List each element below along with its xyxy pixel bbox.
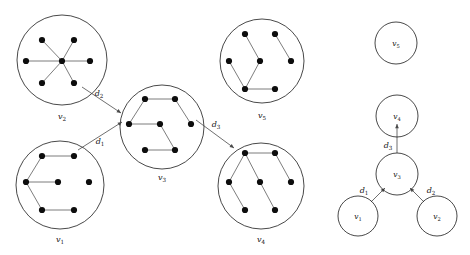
tree-edge-d2: d2 xyxy=(410,186,436,202)
node-v3-3 xyxy=(157,121,163,127)
cluster-label-v5: v5 xyxy=(258,111,267,121)
node-v4-4 xyxy=(288,179,294,185)
tree-node-v2: v2 xyxy=(417,196,457,236)
distance-line-d2 xyxy=(82,87,121,113)
graph-clustering-figure: v2v1v3v5v4d2d1d3d3d1d2v5v4v3v1v2 xyxy=(0,0,470,255)
tree-group: d3d1d2v5v4v3v1v2 xyxy=(338,22,457,236)
edge-v3-4 xyxy=(160,124,175,150)
tree-node-v3: v3 xyxy=(376,153,418,195)
tree-node-v1: v1 xyxy=(338,196,378,236)
distance-arrowhead-d2 xyxy=(116,109,121,113)
node-v1-4 xyxy=(86,179,92,185)
cluster-boundary-v1 xyxy=(16,141,104,229)
cluster-v5: v5 xyxy=(220,19,304,121)
diagram-canvas: v2v1v3v5v4d2d1d3d3d1d2v5v4v3v1v2 xyxy=(0,0,470,255)
node-v4-1 xyxy=(272,150,278,156)
distance-label-d1: d1 xyxy=(96,137,105,147)
distance-arrow-d2: d2 xyxy=(82,87,121,113)
edge-v4-3 xyxy=(275,153,291,182)
node-v4-5 xyxy=(242,207,248,213)
node-v4-6 xyxy=(272,207,278,213)
cluster-v3: v3 xyxy=(120,85,204,183)
edge-v1-1 xyxy=(26,156,42,182)
node-v5-0 xyxy=(242,31,248,37)
node-v3-5 xyxy=(142,147,148,153)
node-v2-4 xyxy=(87,58,93,64)
distance-arrow-d1: d1 xyxy=(78,122,122,150)
edge-v3-1 xyxy=(129,99,145,124)
distance-arrow-group: d2d1d3 xyxy=(78,87,234,150)
edge-v2-4 xyxy=(42,61,62,83)
node-v5-3 xyxy=(257,58,263,64)
node-v2-1 xyxy=(71,37,77,43)
node-v1-1 xyxy=(71,153,77,159)
node-v2-0 xyxy=(39,37,45,43)
edge-v5-1 xyxy=(275,34,291,61)
node-v2-3 xyxy=(59,58,65,64)
node-v3-2 xyxy=(126,121,132,127)
tree-node-label-v2: v2 xyxy=(433,212,441,222)
distance-label-d2: d2 xyxy=(95,89,104,99)
node-v3-1 xyxy=(172,96,178,102)
tree-arrowhead-d3 xyxy=(395,124,399,128)
tree-node-v5: v5 xyxy=(375,22,417,64)
tree-edge-label-d3: d3 xyxy=(384,141,393,151)
node-v5-6 xyxy=(272,86,278,92)
distance-arrowhead-d1 xyxy=(117,122,122,126)
tree-node-label-v3: v3 xyxy=(393,170,401,180)
edge-v5-0 xyxy=(245,34,260,61)
node-v5-4 xyxy=(288,58,294,64)
cluster-v1: v1 xyxy=(16,141,104,245)
node-v3-0 xyxy=(142,96,148,102)
node-v5-2 xyxy=(226,58,232,64)
node-v1-3 xyxy=(55,179,61,185)
edge-v2-1 xyxy=(62,40,74,61)
node-v5-5 xyxy=(242,86,248,92)
cluster-group: v2v1v3v5v4 xyxy=(16,15,304,245)
distance-arrow-d3: d3 xyxy=(196,120,234,148)
node-v3-6 xyxy=(172,147,178,153)
distance-arrowhead-d3 xyxy=(230,144,234,148)
node-v4-3 xyxy=(257,179,263,185)
node-v4-2 xyxy=(226,179,232,185)
edge-v2-5 xyxy=(62,61,74,83)
node-v5-1 xyxy=(272,31,278,37)
node-v1-2 xyxy=(23,179,29,185)
node-v2-2 xyxy=(23,58,29,64)
node-v1-6 xyxy=(71,207,77,213)
edge-v1-3 xyxy=(26,182,42,210)
cluster-label-v3: v3 xyxy=(158,173,167,183)
tree-edge-label-d2: d2 xyxy=(427,186,436,196)
tree-node-label-v1: v1 xyxy=(354,212,362,222)
edge-v2-0 xyxy=(42,40,62,61)
cluster-label-v4: v4 xyxy=(257,235,266,245)
cluster-v4: v4 xyxy=(218,143,304,245)
edge-v4-4 xyxy=(260,182,275,210)
edge-v5-2 xyxy=(229,61,245,89)
node-v1-5 xyxy=(39,207,45,213)
tree-node-label-v5: v5 xyxy=(392,39,400,49)
edge-v5-3 xyxy=(245,61,260,89)
tree-edge-d3: d3 xyxy=(384,124,399,153)
distance-label-d3: d3 xyxy=(212,120,221,130)
node-v2-6 xyxy=(71,80,77,86)
tree-edge-label-d1: d1 xyxy=(360,186,369,196)
cluster-label-v2: v2 xyxy=(58,112,67,122)
edge-v4-5 xyxy=(229,182,245,210)
cluster-v2: v2 xyxy=(17,15,107,122)
tree-node-label-v4: v4 xyxy=(393,112,401,122)
edge-v3-2 xyxy=(175,99,191,124)
edge-v4-1 xyxy=(229,153,245,182)
node-v1-0 xyxy=(39,153,45,159)
node-v4-0 xyxy=(242,150,248,156)
cluster-label-v1: v1 xyxy=(56,235,64,245)
node-v2-5 xyxy=(39,80,45,86)
node-v3-4 xyxy=(188,121,194,127)
edge-v4-2 xyxy=(245,153,260,182)
